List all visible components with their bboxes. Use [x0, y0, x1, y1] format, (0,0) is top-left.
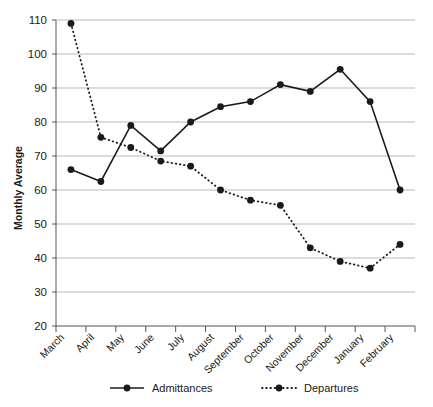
data-point — [337, 258, 344, 265]
y-axis-tick-label: 110 — [29, 14, 47, 26]
data-point — [367, 98, 374, 105]
data-point — [337, 66, 344, 73]
data-point — [397, 241, 404, 248]
data-point — [157, 158, 164, 165]
y-axis-tick-label: 90 — [34, 82, 47, 94]
y-axis-tick-label: 60 — [34, 184, 47, 196]
data-point — [397, 187, 404, 194]
y-axis-tick-label: 50 — [34, 218, 47, 230]
data-point — [277, 81, 284, 88]
line-chart: 2030405060708090100110 MarchAprilMayJune… — [0, 0, 433, 407]
legend-label: Admittances — [152, 382, 213, 394]
data-point — [187, 163, 194, 170]
y-axis-tick-label: 30 — [34, 286, 47, 298]
data-point — [127, 144, 134, 151]
legend-marker-icon — [276, 385, 283, 392]
data-point — [307, 88, 314, 95]
data-point — [217, 103, 224, 110]
legend-label: Departures — [304, 382, 359, 394]
chart-figure: 2030405060708090100110 MarchAprilMayJune… — [0, 0, 433, 407]
data-point — [68, 20, 75, 27]
data-point — [367, 265, 374, 272]
data-point — [157, 148, 164, 155]
y-axis-tick-label: 20 — [34, 320, 47, 332]
y-axis-tick-label: 40 — [34, 252, 47, 264]
data-point — [127, 122, 134, 129]
chart-background — [0, 0, 433, 407]
data-point — [247, 98, 254, 105]
y-axis-title: Monthly Average — [12, 146, 24, 230]
data-point — [277, 202, 284, 209]
y-axis-tick-label: 80 — [34, 116, 47, 128]
y-axis-tick-label: 70 — [34, 150, 47, 162]
data-point — [97, 134, 104, 141]
y-axis-tick-label: 100 — [28, 48, 47, 60]
data-point — [97, 178, 104, 185]
data-point — [217, 187, 224, 194]
data-point — [68, 166, 75, 173]
data-point — [247, 197, 254, 204]
legend-marker-icon — [124, 385, 131, 392]
data-point — [187, 119, 194, 126]
data-point — [307, 244, 314, 251]
